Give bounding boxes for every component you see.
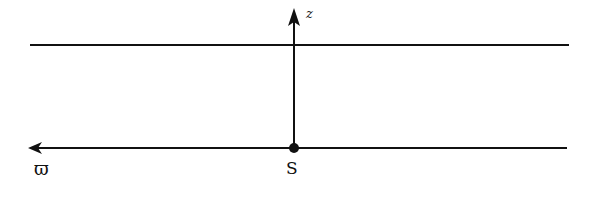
z-axis-label: z <box>306 6 313 21</box>
radial-axis-label: ϖ <box>34 158 49 179</box>
source-point-icon <box>289 143 299 153</box>
source-point-label: S <box>286 158 298 178</box>
diagram-canvas <box>0 0 597 200</box>
